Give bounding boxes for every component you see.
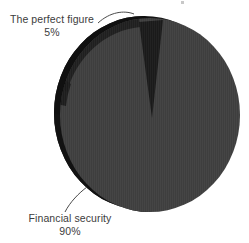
pie-chart: The perfect figure 5% Financial security… — [0, 0, 249, 243]
slice-label-financial-security-name: Financial security — [29, 212, 112, 224]
cropped-text-artifact — [181, 1, 184, 4]
slice-label-perfect-figure-name: The perfect figure — [10, 13, 94, 25]
slice-label-financial-security-value: 90% — [10, 225, 130, 238]
slice-label-perfect-figure-value: 5% — [2, 26, 102, 39]
leader-line-financial-security — [65, 187, 87, 212]
slice-label-perfect-figure: The perfect figure 5% — [2, 13, 102, 39]
slice-label-financial-security: Financial security 90% — [10, 212, 130, 238]
